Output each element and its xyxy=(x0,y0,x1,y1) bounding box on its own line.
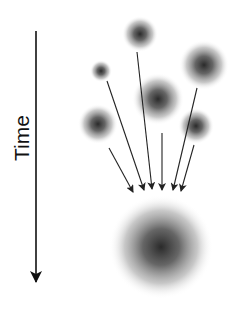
small-blobs xyxy=(78,16,229,144)
blob xyxy=(122,16,158,52)
blob xyxy=(90,60,112,82)
blob xyxy=(78,104,118,144)
merge-arrow xyxy=(181,145,194,191)
blob xyxy=(178,108,214,144)
time-axis-label: Time xyxy=(10,115,34,161)
merged-blob xyxy=(109,195,213,299)
blob xyxy=(179,40,229,90)
merged-blob-circle xyxy=(109,195,213,299)
merge-arrow xyxy=(109,148,133,192)
merge-over-time-diagram xyxy=(0,0,238,309)
